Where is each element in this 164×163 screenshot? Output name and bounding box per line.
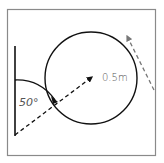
radius-label: 0.5m: [102, 72, 128, 83]
exit-direction-arrow: [127, 36, 154, 90]
diagram-frame: [8, 10, 156, 156]
loop-diagram: 50° 0.5m: [0, 0, 164, 163]
angle-label: 50°: [19, 96, 39, 109]
